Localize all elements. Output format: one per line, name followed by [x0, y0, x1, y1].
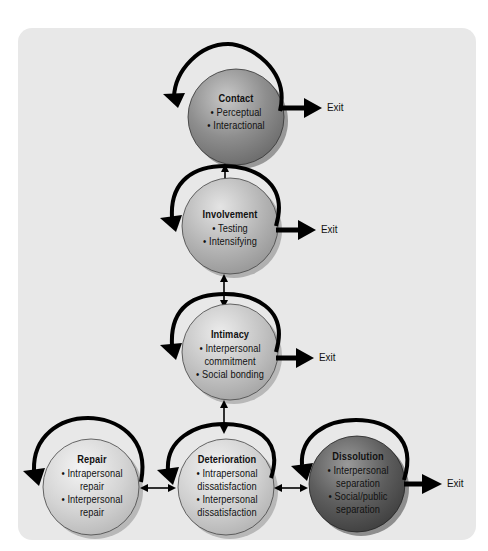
contact-title: Contact	[192, 92, 280, 105]
connector-involvement-intimacy	[220, 274, 228, 308]
repair-item: • Interpersonal	[46, 493, 138, 506]
dissolution-exit-label: Exit	[447, 477, 464, 489]
involvement-title: Involvement	[186, 208, 274, 221]
deterioration-item: dissatisfaction	[179, 506, 276, 519]
repair-label: Repair • Intrapersonal repair • Interper…	[46, 453, 138, 519]
involvement-label: Involvement • Testing • Intensifying	[186, 208, 274, 248]
dissolution-item: separation	[311, 503, 404, 516]
repair-item: repair	[46, 506, 138, 519]
contact-loop-arrowhead-icon	[163, 93, 185, 108]
arrow-right-icon	[168, 484, 176, 492]
contact-exit-arrowhead-icon	[304, 98, 322, 118]
deterioration-item: dissatisfaction	[179, 480, 276, 493]
deterioration-item: • Intrapersonal	[179, 467, 276, 480]
repair-item: repair	[46, 480, 138, 493]
dissolution-label: Dissolution • Interpersonal separation •…	[311, 450, 404, 516]
connector-deterioration-dissolution	[274, 484, 308, 492]
intimacy-item: commitment	[184, 355, 276, 368]
contact-exit-label: Exit	[327, 101, 344, 113]
connector-repair-deterioration	[140, 484, 176, 492]
involvement-exit-arrowhead-icon	[298, 220, 316, 240]
intimacy-exit-label: Exit	[319, 351, 336, 363]
contact-label: Contact • Perceptual • Interactional	[192, 92, 280, 132]
intimacy-title: Intimacy	[184, 328, 276, 341]
dissolution-title: Dissolution	[311, 450, 404, 463]
repair-loop-arrowhead-icon	[23, 468, 45, 486]
dissolution-exit-arrowhead-icon	[422, 474, 442, 494]
repair-title: Repair	[46, 453, 138, 466]
dissolution-item: • Interpersonal	[311, 464, 404, 477]
intimacy-exit-arrowhead-icon	[296, 348, 314, 368]
contact-item: • Perceptual	[192, 106, 280, 119]
involvement-exit-label: Exit	[321, 223, 338, 235]
intimacy-label: Intimacy • Interpersonal commitment • So…	[184, 328, 276, 381]
deterioration-item: • Interpersonal	[179, 493, 276, 506]
arrow-right-icon	[300, 484, 308, 492]
intimacy-item: • Social bonding	[184, 368, 276, 381]
deterioration-title: Deterioration	[179, 453, 276, 466]
intimacy-loop-arrowhead-icon	[160, 343, 182, 360]
deterioration-loop-arrowhead-icon	[157, 467, 179, 485]
involvement-loop-arrowhead-icon	[160, 215, 182, 232]
arrow-down-icon	[220, 426, 228, 434]
intimacy-item: • Interpersonal	[184, 342, 276, 355]
repair-item: • Intrapersonal	[46, 467, 138, 480]
involvement-item: • Intensifying	[186, 235, 274, 248]
dissolution-item: • Social/public	[311, 490, 404, 503]
deterioration-label: Deterioration • Intrapersonal dissatisfa…	[179, 453, 276, 519]
connector-intimacy-deterioration	[220, 400, 228, 434]
contact-item: • Interactional	[192, 119, 280, 132]
dissolution-item: separation	[311, 477, 404, 490]
involvement-item: • Testing	[186, 222, 274, 235]
